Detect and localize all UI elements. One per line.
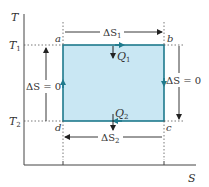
carnot-ts-diagram: T S T1 T2 a b c d ΔS1 ΔS2 ΔS = 0 ΔS = 0 … <box>0 0 209 187</box>
delta-s2-label: ΔS2 <box>101 132 120 145</box>
delta-s1-label: ΔS1 <box>103 27 122 40</box>
left-adiabat-label: ΔS = 0 <box>26 81 61 92</box>
t1-label: T1 <box>9 39 21 53</box>
right-adiabat-label: ΔS = 0 <box>166 75 201 86</box>
corner-b-label: b <box>167 33 173 44</box>
x-axis-label: S <box>188 172 196 185</box>
t2-label: T2 <box>9 115 21 129</box>
corner-c-label: c <box>166 122 172 133</box>
y-axis-label: T <box>11 11 20 24</box>
corner-a-label: a <box>55 33 61 44</box>
corner-d-label: d <box>55 122 61 133</box>
